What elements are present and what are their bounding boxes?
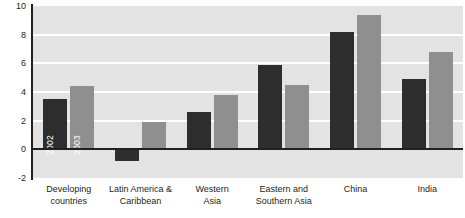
- series-inline-legend-label: 2003: [72, 135, 82, 155]
- bar: [214, 95, 238, 149]
- bar: [142, 122, 166, 149]
- y-axis-tick-label: 6: [0, 59, 26, 68]
- y-axis-tick-label: 0: [0, 145, 26, 154]
- bar: [357, 15, 381, 150]
- x-axis-category-label: India: [383, 184, 465, 196]
- bar: [330, 32, 354, 150]
- y-axis-tick-label: 8: [0, 30, 26, 39]
- bar: [429, 52, 453, 149]
- series-inline-legend-label: 2002: [45, 135, 55, 155]
- plot-area: 20022003: [33, 6, 463, 178]
- category-label-line: Southern Asia: [240, 196, 328, 208]
- y-axis-tick-label: 10: [0, 2, 26, 11]
- bar: [402, 79, 426, 149]
- gridline: [33, 34, 463, 36]
- bar: 2003: [70, 86, 94, 149]
- y-axis-tick-label: 4: [0, 88, 26, 97]
- bar: 2002: [43, 99, 67, 149]
- y-axis-spine: [31, 4, 33, 180]
- bar: [115, 149, 139, 160]
- bar-chart: 1086420-2 20022003 DevelopingcountriesLa…: [0, 0, 465, 218]
- gridline: [33, 91, 463, 93]
- gridline: [33, 120, 463, 122]
- gridline: [33, 62, 463, 64]
- y-axis-tick-label: 2: [0, 116, 26, 125]
- zero-baseline: [31, 148, 463, 150]
- bar: [285, 85, 309, 150]
- bar: [258, 65, 282, 150]
- y-axis-tick-label: -2: [0, 174, 26, 183]
- category-label-line: India: [383, 184, 465, 196]
- bar: [187, 112, 211, 149]
